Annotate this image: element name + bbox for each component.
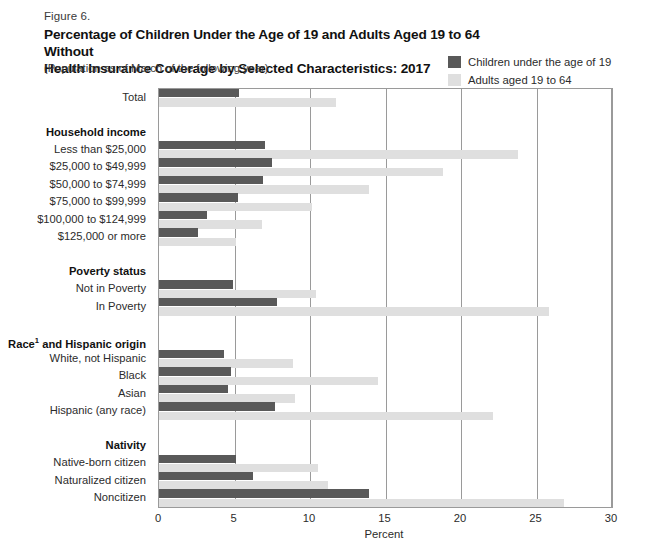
legend-item: Children under the age of 19 [448, 54, 611, 70]
x-axis-title: Percent [365, 528, 404, 540]
category-label: Less than $25,000 [54, 143, 146, 155]
bar-children [159, 350, 224, 358]
bar-adults [159, 98, 336, 106]
x-tick-label: 15 [378, 512, 390, 524]
bar-children [159, 385, 228, 393]
bar-group [159, 350, 612, 367]
legend-swatch-children [448, 56, 461, 68]
title-line-1: Percentage of Children Under the Age of … [44, 27, 480, 59]
bar-adults [159, 238, 236, 246]
category-label: $75,000 to $99,999 [50, 195, 146, 207]
bar-group [159, 211, 612, 228]
bar-children [159, 141, 265, 149]
bar-adults [159, 412, 493, 420]
category-label: Not in Poverty [76, 282, 146, 294]
bar-children [159, 402, 275, 410]
bar-group [159, 455, 612, 472]
legend-swatch-adults [448, 74, 461, 86]
bar-children [159, 176, 263, 184]
bar-adults [159, 499, 564, 507]
bar-group [159, 176, 612, 193]
x-tick-label: 5 [230, 512, 236, 524]
category-group-heading: Nativity [106, 439, 146, 451]
bar-group [159, 89, 612, 106]
category-group-heading: Household income [46, 126, 146, 138]
category-label: $100,000 to $124,999 [37, 213, 146, 225]
category-label: White, not Hispanic [50, 352, 146, 364]
bar-children [159, 472, 253, 480]
category-label: Total [122, 91, 146, 103]
bar-children [159, 455, 236, 463]
category-label: Naturalized citizen [55, 474, 146, 486]
x-axis-ticks: 051015202530 [0, 512, 665, 528]
bar-children [159, 89, 239, 97]
x-tick-label: 10 [303, 512, 315, 524]
bar-group [159, 472, 612, 489]
figure-number: Figure 6. [44, 10, 90, 22]
category-label: $125,000 or more [58, 230, 146, 242]
category-label: Asian [118, 387, 146, 399]
bar-children [159, 298, 277, 306]
bar-adults [159, 307, 549, 315]
legend-item-label: Children under the age of 19 [468, 56, 611, 68]
x-tick-label: 20 [454, 512, 466, 524]
category-label: Native-born citizen [53, 456, 146, 468]
category-axis-labels: TotalHousehold incomeLess than $25,000$2… [0, 88, 152, 506]
bar-group [159, 194, 612, 211]
category-group-heading: Race1 and Hispanic origin [8, 335, 146, 350]
bar-group [159, 490, 612, 507]
bar-children [159, 489, 369, 497]
bar-group [159, 281, 612, 298]
category-label: Black [119, 369, 146, 381]
category-label: Noncitizen [94, 491, 146, 503]
bar-children [159, 211, 207, 219]
bar-group [159, 368, 612, 385]
x-tick-label: 25 [529, 512, 541, 524]
category-label: In Poverty [96, 300, 146, 312]
bar-rows [159, 89, 612, 507]
legend-item: Adults aged 19 to 64 [448, 72, 611, 88]
figure-subtitle: (Population as of March of the following… [44, 62, 269, 74]
bar-group [159, 141, 612, 158]
category-label: Hispanic (any race) [50, 404, 146, 416]
bar-group [159, 228, 612, 245]
bar-group [159, 385, 612, 402]
category-label: $50,000 to $74,999 [50, 178, 146, 190]
category-label: $25,000 to $49,999 [50, 160, 146, 172]
x-tick-label: 30 [605, 512, 617, 524]
chart-legend: Children under the age of 19Adults aged … [448, 54, 611, 90]
bar-group [159, 298, 612, 315]
bar-children [159, 280, 233, 288]
category-group-heading: Poverty status [69, 265, 146, 277]
legend-item-label: Adults aged 19 to 64 [468, 74, 572, 86]
bar-children [159, 367, 231, 375]
x-tick-label: 0 [155, 512, 161, 524]
bar-children [159, 228, 198, 236]
bar-group [159, 403, 612, 420]
bar-group [159, 159, 612, 176]
chart-plot-area [158, 88, 613, 508]
bar-children [159, 193, 238, 201]
bar-children [159, 158, 272, 166]
